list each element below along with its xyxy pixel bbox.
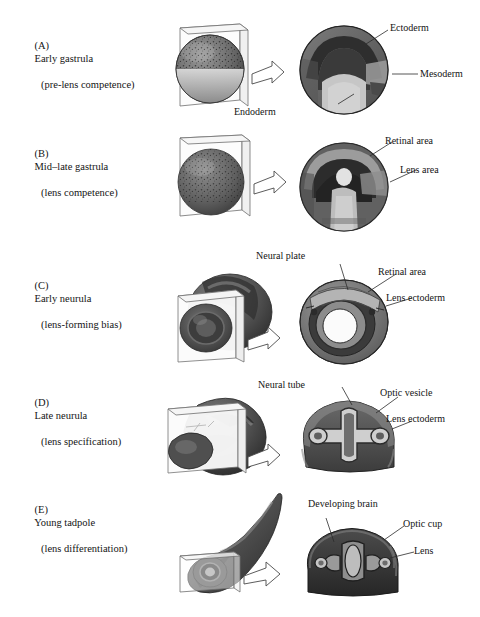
- panel-e-whole-embryo: [160, 490, 308, 615]
- panel-b: (B) Mid–late gastrula (lens competence): [0, 128, 480, 250]
- panel-c-caption: (C) Early neurula (lens-forming bias): [24, 266, 122, 357]
- panel-a-label-mesoderm: Mesoderm: [420, 68, 463, 80]
- panel-d-label-lens-ectoderm: Lens ectoderm: [386, 413, 445, 425]
- panel-d-tag: (D): [35, 397, 50, 408]
- panel-d-label-neural-tube: Neural tube: [258, 379, 305, 391]
- panel-a-leaders: [330, 22, 480, 112]
- panel-d-title: Late neurula: [35, 410, 88, 421]
- panel-b-label-retinal-area: Retinal area: [385, 135, 433, 147]
- panel-d-caption: (D) Late neurula (lens specification): [24, 383, 121, 474]
- panel-c-whole-embryo: [158, 262, 293, 368]
- panel-e-subtitle: (lens differentiation): [24, 542, 127, 555]
- panel-b-subtitle: (lens competence): [24, 186, 118, 199]
- panel-b-label-lens-area: Lens area: [400, 164, 439, 176]
- panel-e-tag: (E): [35, 504, 48, 515]
- panel-d: (D) Late neurula (lens specification): [0, 375, 480, 490]
- panel-c-tag: (C): [35, 280, 49, 291]
- panel-a-title: Early gastrula: [35, 53, 94, 64]
- panel-c-label-neural-plate: Neural plate: [256, 250, 305, 262]
- panel-c-label-lens-ectoderm: Lens ectoderm: [386, 292, 445, 304]
- panel-e-label-developing-brain: Developing brain: [308, 498, 378, 510]
- panel-a-caption: (A) Early gastrula (pre-lens competence): [24, 26, 135, 117]
- panel-a-label-ectoderm: Ectoderm: [390, 22, 429, 34]
- panel-c-label-retinal-area: Retinal area: [378, 266, 426, 278]
- panel-e-label-lens: Lens: [414, 545, 433, 557]
- panel-c-subtitle: (lens-forming bias): [24, 318, 122, 331]
- panel-b-whole-embryo: [164, 134, 286, 234]
- panel-c-title: Early neurula: [35, 293, 92, 304]
- panel-e-label-optic-cup: Optic cup: [403, 518, 442, 530]
- panel-a-subtitle: (pre-lens competence): [24, 78, 135, 91]
- panel-b-title: Mid–late gastrula: [35, 161, 109, 172]
- panel-a-tag: (A): [35, 40, 50, 51]
- panel-d-whole-embryo: [150, 383, 292, 487]
- panel-b-caption: (B) Mid–late gastrula (lens competence): [24, 134, 118, 225]
- panel-a: (A) Early gastrula (pre-lens competence): [0, 0, 480, 128]
- panel-c: (C) Early neurula (lens-forming bias): [0, 250, 480, 375]
- panel-d-subtitle: (lens specification): [24, 435, 121, 448]
- panel-d-label-optic-vesicle: Optic vesicle: [380, 387, 432, 399]
- panel-e-title: Young tadpole: [34, 517, 95, 528]
- panel-b-tag: (B): [35, 148, 49, 159]
- panel-e: (E) Young tadpole (lens differentiation): [0, 490, 480, 617]
- panel-e-caption: (E) Young tadpole (lens differentiation): [24, 490, 127, 581]
- panel-a-label-endoderm: Endoderm: [234, 106, 276, 118]
